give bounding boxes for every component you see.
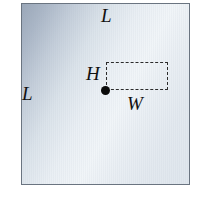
corner-point-dot — [101, 86, 110, 95]
inner-dashed-rectangle — [106, 62, 168, 90]
label-height: H — [86, 64, 100, 83]
geometry-figure: L L H W — [0, 0, 202, 197]
label-side-length-left: L — [22, 84, 33, 103]
label-width: W — [127, 94, 143, 113]
label-side-length-top: L — [101, 6, 112, 25]
